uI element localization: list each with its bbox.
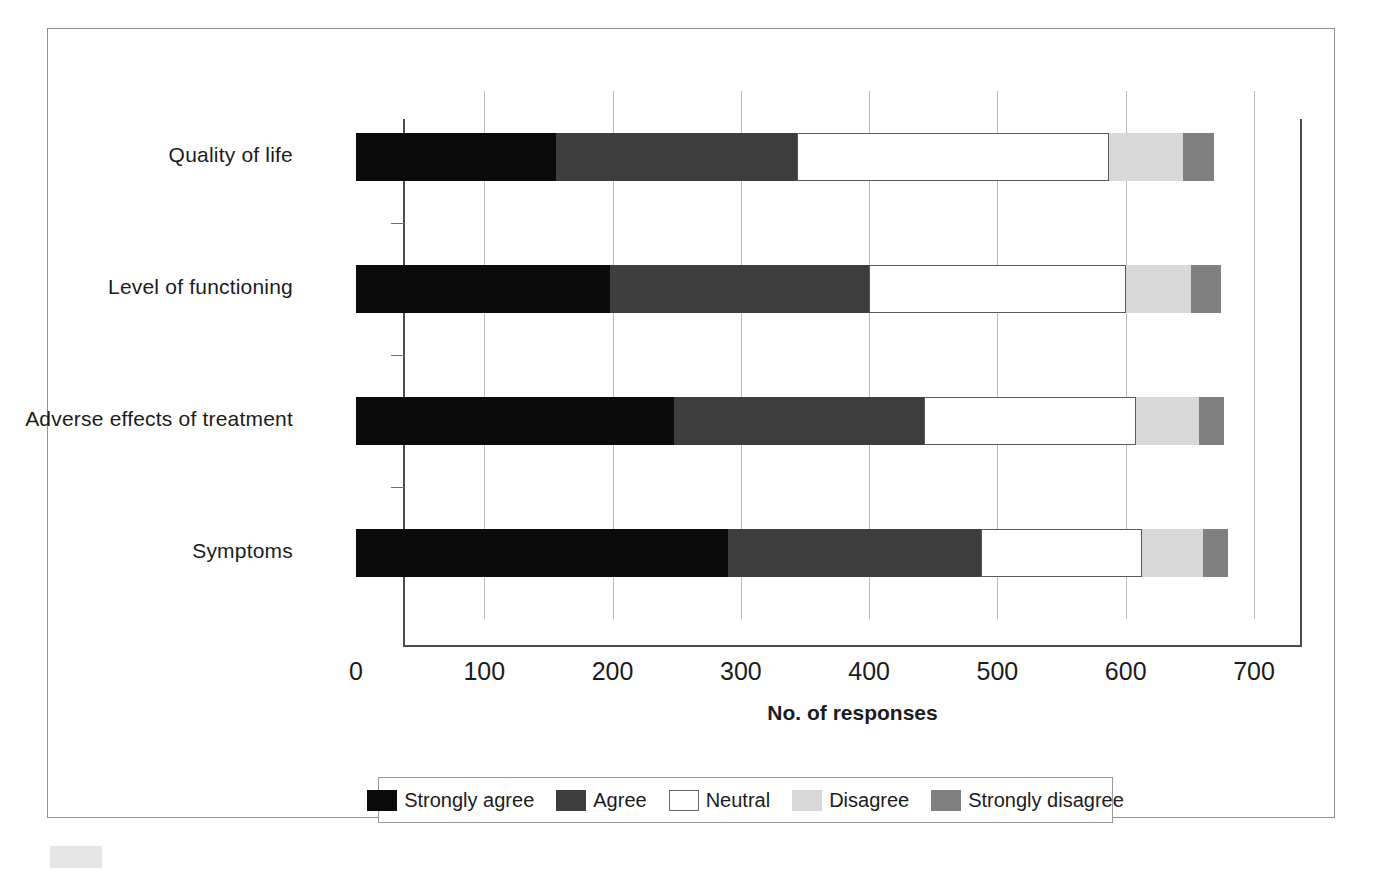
category-label-3: Symptoms [192, 539, 293, 563]
bar-segment-a [610, 265, 869, 313]
bar-segment-n [981, 529, 1143, 577]
legend-item-sd[interactable]: Strongly disagree [931, 789, 1124, 812]
legend-item-n[interactable]: Neutral [669, 789, 770, 812]
bar-segment-d [1142, 529, 1202, 577]
bar-segment-d [1136, 397, 1199, 445]
category-label-2: Adverse effects of treatment [25, 407, 293, 431]
gridline-700 [1254, 91, 1255, 619]
bar-segment-sd [1203, 529, 1229, 577]
chart-legend: Strongly agreeAgreeNeutralDisagreeStrong… [378, 777, 1113, 823]
bar-segment-sa [356, 397, 674, 445]
legend-swatch-sa-icon [367, 790, 397, 811]
bar-segment-sa [356, 529, 728, 577]
x-tick-label-700: 700 [1214, 657, 1294, 686]
x-tick-label-600: 600 [1086, 657, 1166, 686]
legend-swatch-n-icon [669, 790, 699, 811]
plot-right-border [1300, 119, 1302, 647]
x-axis-title: No. of responses [403, 701, 1302, 725]
legend-label-a: Agree [593, 789, 646, 812]
bar-segment-sd [1191, 265, 1221, 313]
category-label-1: Level of functioning [108, 275, 293, 299]
legend-label-n: Neutral [706, 789, 770, 812]
legend-swatch-sd-icon [931, 790, 961, 811]
x-tick-label-300: 300 [701, 657, 781, 686]
legend-label-d: Disagree [829, 789, 909, 812]
x-tick-label-400: 400 [829, 657, 909, 686]
category-label-0: Quality of life [169, 143, 293, 167]
x-tick-label-0: 0 [316, 657, 396, 686]
legend-swatch-a-icon [556, 790, 586, 811]
bar-segment-n [924, 397, 1136, 445]
category-tick-3 [391, 487, 404, 488]
figure-root: Quality of lifeLevel of functioningAdver… [0, 0, 1386, 892]
bar-segment-a [728, 529, 981, 577]
figure-frame: Quality of lifeLevel of functioningAdver… [47, 28, 1335, 818]
bar-segment-n [797, 133, 1109, 181]
scan-artifact [50, 846, 102, 868]
bar-segment-a [674, 397, 924, 445]
bar-segment-sa [356, 265, 610, 313]
category-tick-1 [391, 223, 404, 224]
bar-segment-sd [1183, 133, 1214, 181]
legend-swatch-d-icon [792, 790, 822, 811]
bar-segment-d [1109, 133, 1183, 181]
bar-segment-sa [356, 133, 556, 181]
bar-segment-sd [1199, 397, 1225, 445]
bar-segment-a [556, 133, 797, 181]
x-tick-label-500: 500 [957, 657, 1037, 686]
x-axis-line [403, 645, 1302, 647]
legend-item-a[interactable]: Agree [556, 789, 646, 812]
bar-segment-n [869, 265, 1126, 313]
x-tick-label-200: 200 [573, 657, 653, 686]
x-tick-label-100: 100 [444, 657, 524, 686]
bar-segment-d [1126, 265, 1191, 313]
legend-label-sd: Strongly disagree [968, 789, 1124, 812]
legend-label-sa: Strongly agree [404, 789, 534, 812]
legend-item-sa[interactable]: Strongly agree [367, 789, 534, 812]
category-tick-2 [391, 355, 404, 356]
legend-item-d[interactable]: Disagree [792, 789, 909, 812]
